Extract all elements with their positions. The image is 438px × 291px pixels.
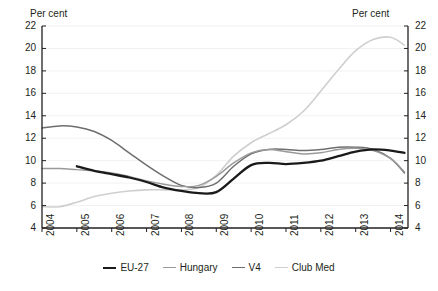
y-tick-label-right: 10 xyxy=(415,156,433,166)
y-tick-label-left: 20 xyxy=(18,43,36,53)
series-lines xyxy=(42,37,405,207)
x-tick-label: 2013 xyxy=(360,214,370,236)
legend-label: Hungary xyxy=(180,262,218,273)
x-tick-label: 2012 xyxy=(325,214,335,236)
legend-item[interactable]: Club Med xyxy=(275,262,335,273)
y-tick-label-left: 18 xyxy=(18,66,36,76)
axis-lines xyxy=(42,26,408,232)
y-tick-label-left: 6 xyxy=(18,201,36,211)
legend-line-icon xyxy=(232,267,245,268)
y-tick-label-right: 16 xyxy=(415,88,433,98)
legend-label: V4 xyxy=(249,262,261,273)
legend-item[interactable]: EU-27 xyxy=(103,262,148,273)
y-tick-label-right: 6 xyxy=(415,201,433,211)
legend-item[interactable]: Hungary xyxy=(163,262,218,273)
y-tick-label-left: 16 xyxy=(18,88,36,98)
plot-area xyxy=(0,0,438,291)
y-tick-label-right: 22 xyxy=(415,21,433,31)
x-tick-label: 2011 xyxy=(290,214,300,236)
legend-line-icon xyxy=(275,267,288,268)
legend-label: Club Med xyxy=(292,262,335,273)
x-tick-label: 2007 xyxy=(151,214,161,236)
chart-legend: EU-27HungaryV4Club Med xyxy=(0,262,438,273)
legend-line-icon xyxy=(103,267,116,269)
y-tick-label-left: 10 xyxy=(18,156,36,166)
y-tick-label-right: 8 xyxy=(415,178,433,188)
y-tick-label-right: 12 xyxy=(415,133,433,143)
legend-line-icon xyxy=(163,267,176,268)
x-tick-label: 2010 xyxy=(255,214,265,236)
x-tick-label: 2008 xyxy=(185,214,195,236)
y-tick-label-left: 22 xyxy=(18,21,36,31)
legend-label: EU-27 xyxy=(120,262,148,273)
x-tick-label: 2014 xyxy=(395,214,405,236)
x-tick-label: 2005 xyxy=(81,214,91,236)
y-tick-label-left: 14 xyxy=(18,111,36,121)
y-tick-label-left: 4 xyxy=(18,223,36,233)
y-tick-label-right: 20 xyxy=(415,43,433,53)
y-tick-label-left: 12 xyxy=(18,133,36,143)
x-tick-label: 2006 xyxy=(116,214,126,236)
y-tick-label-right: 14 xyxy=(415,111,433,121)
x-tick-label: 2004 xyxy=(46,214,56,236)
y-tick-label-left: 8 xyxy=(18,178,36,188)
y-tick-label-right: 4 xyxy=(415,223,433,233)
x-tick-label: 2009 xyxy=(220,214,230,236)
legend-item[interactable]: V4 xyxy=(232,262,261,273)
y-tick-label-right: 18 xyxy=(415,66,433,76)
unemployment-line-chart: Per cent Per cent 46810121416182022 4681… xyxy=(0,0,438,291)
